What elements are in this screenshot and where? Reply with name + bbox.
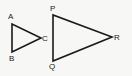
vertex-label-b: B <box>9 54 14 63</box>
vertex-label-r: R <box>114 33 120 42</box>
vertex-label-a: A <box>8 12 14 21</box>
triangle-abc <box>12 24 41 52</box>
triangle-pqr <box>53 15 112 61</box>
vertex-label-p: P <box>50 4 55 13</box>
vertex-label-c: C <box>42 34 48 43</box>
triangles-diagram: A B C P Q R <box>0 0 132 76</box>
vertex-label-q: Q <box>49 62 55 71</box>
